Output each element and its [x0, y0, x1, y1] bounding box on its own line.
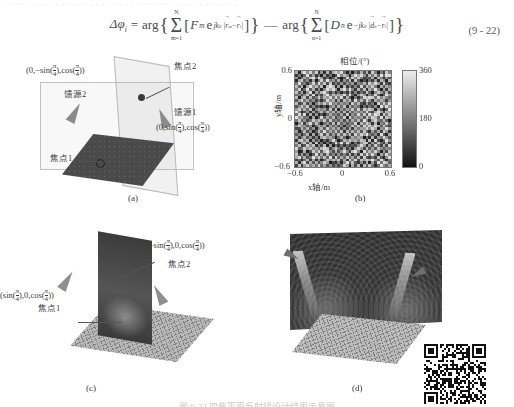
rbrack-1: ] — [244, 17, 249, 34]
rbrack-2: ] — [389, 17, 394, 34]
panel-a-scene — [22, 60, 262, 195]
reflectarray-panel-c — [98, 231, 152, 345]
rbrace-1: } — [250, 14, 259, 36]
feed-horn-left-icon-c — [57, 269, 77, 292]
lbrace-1: { — [159, 14, 168, 36]
label-focus2-coordinate-c: (−sin(π4),0,cos(π4)) — [146, 238, 205, 253]
exponent-1: jk0 |rm−ri| — [213, 21, 243, 30]
figure-panel-c: (−sin(π4),0,cos(π4)) 焦点2 (sin(π4),0,cos(… — [14, 218, 264, 368]
panel-caption-b: (b) — [355, 193, 366, 203]
equation-minus: — — [264, 17, 277, 33]
figure-panel-a: (0,−sin(π4),cos(π4)) 焦点2 馈源2 馈源1 (0,sin(… — [22, 60, 262, 195]
colorbar-title: 相位/(°) — [340, 54, 369, 66]
qr-code-canvas[interactable] — [424, 344, 486, 404]
coef-D: D — [331, 17, 340, 33]
equation-equals: = — [131, 17, 138, 33]
label-focus1-name-c: 焦点1 — [38, 304, 60, 314]
arg-operator-2: arg — [282, 17, 298, 33]
qr-code[interactable] — [424, 344, 486, 404]
colorbar — [402, 70, 417, 168]
label-feed1-coordinate: (0,sin(π4),cos(π4)) — [156, 120, 210, 135]
label-focus2-name-c: 焦点2 — [168, 260, 190, 270]
colorbar-canvas — [403, 71, 416, 167]
lbrace-2: { — [300, 14, 309, 36]
x-tick-right: 0.6 — [375, 168, 405, 178]
equation-lhs: Δφi — [110, 16, 127, 34]
panel-caption-c: (c) — [86, 383, 96, 393]
exp-e-2: e — [347, 17, 353, 33]
focus-point-2-marker — [138, 94, 145, 101]
x-axis-label: x轴/m — [308, 180, 330, 192]
summation-1: N Σ m=1 — [171, 18, 183, 33]
label-focus2-coordinate: (0,−sin(π4),cos(π4)) — [26, 63, 85, 78]
rbrace-2: } — [395, 14, 404, 36]
label-focus2-name: 焦点2 — [174, 62, 196, 72]
exp-e-1: e — [207, 17, 213, 33]
exponent-2: −jk0 |dn−ri| — [353, 21, 388, 30]
panel-caption-d: (d) — [352, 383, 363, 393]
heatmap-plot — [294, 70, 390, 166]
colorbar-tick-max: 360 — [419, 65, 432, 75]
equation-number: (9 - 22) — [469, 25, 501, 36]
label-feed2: 馈源2 — [64, 90, 86, 100]
beam-glow-c — [98, 231, 152, 345]
label-feed1: 馈源1 — [174, 108, 196, 118]
y-tick-top: 0.6 — [268, 65, 292, 75]
lbrack-1: [ — [184, 17, 189, 34]
figure-page: · · · · · · · · · · · · · · · · · · · · … — [0, 0, 514, 407]
colorbar-tick-mid: 180 — [419, 113, 432, 123]
x-tick-left: −0.6 — [280, 168, 310, 178]
coef-F: F — [190, 17, 198, 33]
lbrack-2: [ — [325, 17, 330, 34]
figure-panel-b: 相位/(°) y轴/m 0.6 0 −0.6 360 180 0 −0.6 0 … — [268, 56, 468, 196]
figure-caption: 图 9-22 双焦平面反射镜设计结果示意图 — [0, 400, 514, 407]
label-focus1-name: 焦点1 — [50, 154, 72, 164]
colorbar-tick-min: 0 — [419, 161, 423, 171]
feed-horn-right-icon-c — [150, 283, 169, 306]
arg-operator-1: arg — [142, 17, 158, 33]
equation-9-22: Δφi = arg { N Σ m=1 [ Fm e jk0 |rm−ri| ]… — [0, 8, 514, 42]
y-tick-mid: 0 — [268, 113, 292, 123]
panel-caption-a: (a) — [128, 193, 138, 203]
summation-2: N Σ n=1 — [311, 18, 323, 33]
heatmap-canvas — [294, 70, 392, 168]
leader-line-focus1 — [78, 161, 100, 162]
x-tick-mid: 0 — [327, 168, 357, 178]
top-running-text: · · · · · · · · · · · · · · · · · · · · … — [4, 0, 510, 8]
label-focus1-coordinate-c: (sin(π4),0,cos(π4)) — [0, 288, 54, 303]
leader-line-focus1-c — [78, 322, 122, 323]
